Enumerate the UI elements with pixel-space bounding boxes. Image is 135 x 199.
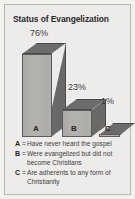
legend-key-a: A <box>15 139 20 148</box>
legend-equals-a: = <box>22 139 26 148</box>
legend-equals-c: = <box>22 168 26 177</box>
legend-key-c: C <box>15 168 20 177</box>
legend-text-b: Were evangelized but did not become Chri… <box>27 149 133 167</box>
legend-text-c: Are adherents to any form of Christianit… <box>27 168 133 186</box>
legend-key-b: B <box>15 149 20 158</box>
legend-item-a: A = Have never heard the gospel <box>15 139 133 148</box>
bar-group-a <box>22 43 66 137</box>
legend-equals-b: = <box>22 149 26 158</box>
bar-c-front-face <box>99 134 120 137</box>
chart-title: Status of Evangelization <box>13 14 109 24</box>
bar-b-value-label: 23% <box>68 82 86 92</box>
axis-label-b: B <box>67 124 81 133</box>
chart-plot-area: 76% 23% 1% A B C <box>9 27 135 137</box>
axis-label-c: C <box>101 124 115 133</box>
legend-item-c: C = Are adherents to any form of Christi… <box>15 168 133 186</box>
bar-a-top-face <box>22 43 66 54</box>
legend-text-a: Have never heard the gospel <box>27 139 133 148</box>
chart-legend: A = Have never heard the gospel B = Were… <box>15 139 133 187</box>
chart-frame: Status of Evangelization 76% 23% 1% <box>0 0 135 199</box>
bar-c-value-label: 1% <box>101 96 114 106</box>
chart-panel: Status of Evangelization 76% 23% 1% <box>4 4 131 195</box>
bar-a-value-label: 76% <box>30 28 48 38</box>
axis-label-a: A <box>29 124 43 133</box>
legend-item-b: B = Were evangelized but did not become … <box>15 149 133 167</box>
